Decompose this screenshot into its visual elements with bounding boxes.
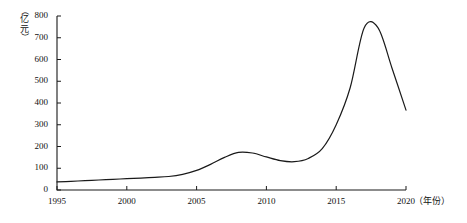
plot-area [0,0,467,223]
axis-lines [57,16,406,190]
x-axis-tick-marks [57,186,406,190]
line-chart: （ 亿 元 ） 0100200300400500600700800 199520… [0,0,467,223]
data-series-line [57,22,406,182]
y-axis-tick-marks [57,16,61,190]
